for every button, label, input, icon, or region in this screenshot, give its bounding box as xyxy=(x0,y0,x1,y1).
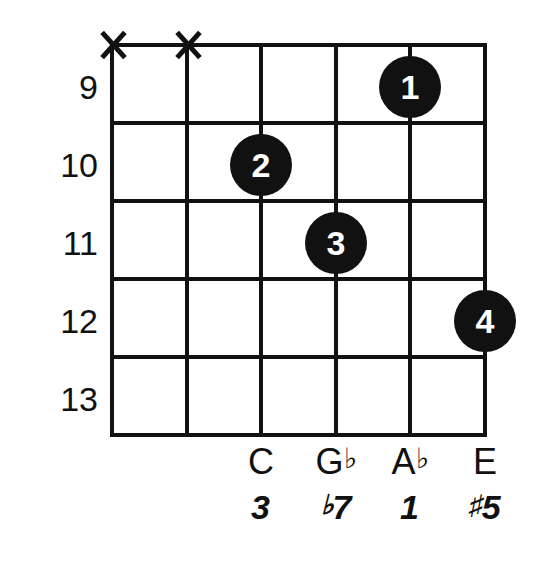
string-line-1 xyxy=(110,43,114,437)
chord-diagram: 9 10 11 12 13 1 2 3 4 C G♭ A♭ E 3 ♭7 1 xyxy=(0,0,543,563)
finger-dot-2: 2 xyxy=(230,134,292,196)
fret-number-13: 13 xyxy=(8,382,98,416)
interval-degree: 1 xyxy=(400,488,419,526)
finger-dot-4: 4 xyxy=(454,290,516,352)
mute-marker-string-2 xyxy=(171,28,205,62)
note-name: G xyxy=(315,441,343,482)
fret-line-nut xyxy=(110,43,487,47)
note-name: A xyxy=(391,441,415,482)
interval-accidental: ♯ xyxy=(469,489,483,520)
interval-label-string-6: ♯5 xyxy=(425,490,543,524)
fret-number-9: 9 xyxy=(8,70,98,104)
string-line-6 xyxy=(483,43,487,437)
finger-dot-1: 1 xyxy=(379,56,441,118)
fret-line-10 xyxy=(110,199,487,203)
string-line-3 xyxy=(259,43,263,437)
fret-line-11 xyxy=(110,277,487,281)
fret-line-9 xyxy=(110,121,487,125)
fret-line-12 xyxy=(110,355,487,359)
fret-number-10: 10 xyxy=(8,148,98,182)
note-name: E xyxy=(473,441,497,482)
note-label-string-6: E xyxy=(425,444,543,480)
fret-number-12: 12 xyxy=(8,304,98,338)
finger-dot-3: 3 xyxy=(305,212,367,274)
interval-degree: 5 xyxy=(482,488,501,526)
interval-degree: 7 xyxy=(333,488,352,526)
fret-number-column: 9 10 11 12 13 xyxy=(0,0,98,563)
fret-line-13 xyxy=(110,433,487,437)
note-name: C xyxy=(248,441,274,482)
string-line-2 xyxy=(185,43,189,437)
mute-marker-string-1 xyxy=(96,28,130,62)
interval-degree: 3 xyxy=(251,488,270,526)
fret-number-11: 11 xyxy=(8,226,98,260)
